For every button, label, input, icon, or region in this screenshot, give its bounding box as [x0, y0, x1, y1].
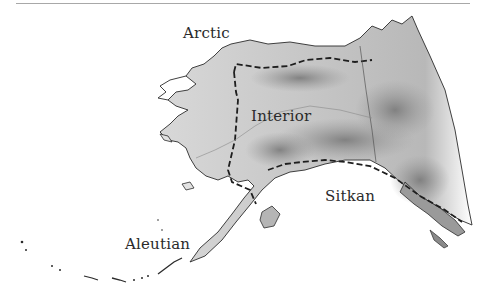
- nunivak-island: [182, 182, 194, 190]
- region-label-aleutian: Aleutian: [125, 235, 190, 253]
- kodiak-island: [260, 206, 280, 228]
- region-label-sitkan: Sitkan: [325, 187, 375, 205]
- region-label-interior: Interior: [251, 107, 311, 125]
- southeast-islands: [430, 230, 448, 248]
- region-label-arctic: Arctic: [183, 24, 230, 42]
- alaska-map: [0, 0, 483, 302]
